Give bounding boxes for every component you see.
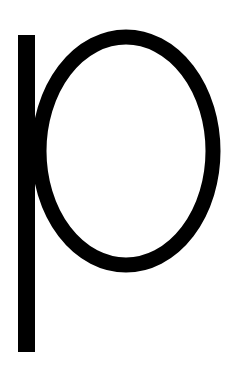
letter-p-glyph: p [0, 0, 236, 371]
letter-p-icon [0, 0, 236, 371]
